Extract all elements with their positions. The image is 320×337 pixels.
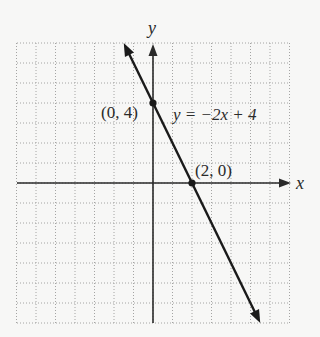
point-label-y-intercept: (0, 4) xyxy=(101,103,138,122)
y-axis-arrow-icon xyxy=(149,44,158,56)
line-arrow-end-icon xyxy=(250,309,260,323)
x-axis-arrow-icon xyxy=(279,179,291,188)
x-axis-label: x xyxy=(295,173,304,193)
axes xyxy=(17,44,291,323)
data-point xyxy=(149,99,156,106)
line-graph: x y (0, 4) (2, 0) y = −2x + 4 xyxy=(0,0,320,337)
point-label-x-intercept: (2, 0) xyxy=(195,161,232,180)
data-point xyxy=(188,179,195,186)
line-arrow-start-icon xyxy=(124,43,134,57)
equation-label: y = −2x + 4 xyxy=(171,105,257,124)
y-axis-label: y xyxy=(146,18,156,38)
